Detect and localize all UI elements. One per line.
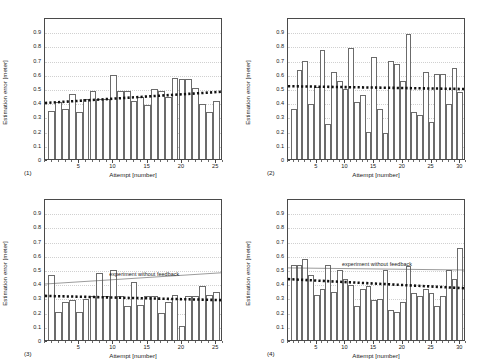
x-tick-label: 5 <box>77 163 80 169</box>
x-tick-label: 5 <box>314 344 317 350</box>
x-tick-minor <box>126 160 127 162</box>
x-tick-minor <box>293 160 294 162</box>
x-tick-minor <box>58 341 59 343</box>
x-tick-minor <box>85 341 86 343</box>
x-tick-minor <box>167 160 168 162</box>
x-tick-minor <box>44 341 45 343</box>
x-tick-label: 5 <box>77 344 80 350</box>
y-tick-label: 0.5 <box>276 86 284 92</box>
y-tick-label: 0.5 <box>33 86 41 92</box>
x-tick-minor <box>356 160 357 162</box>
y-tick-label: 0.4 <box>276 281 284 287</box>
x-tick-minor <box>140 160 141 162</box>
x-axis-title: Attempt [number] <box>287 352 465 359</box>
x-tick-minor <box>339 341 340 343</box>
y-tick-label: 0.3 <box>276 295 284 301</box>
x-tick-minor <box>333 160 334 162</box>
x-tick-minor <box>71 160 72 162</box>
x-tick-minor <box>350 160 351 162</box>
y-tick-label: 0.3 <box>33 295 41 301</box>
x-tick-minor <box>99 341 100 343</box>
x-tick-minor <box>454 341 455 343</box>
x-tick-minor <box>201 341 202 343</box>
y-axis-title: Estimation error [meter] <box>244 60 251 125</box>
x-tick-minor <box>119 341 120 343</box>
x-tick-minor <box>356 341 357 343</box>
subplot-label: (4) <box>267 350 275 357</box>
x-tick-minor <box>92 341 93 343</box>
y-tick-label: 0.6 <box>276 253 284 259</box>
x-tick-minor <box>174 160 175 162</box>
x-tick-minor <box>106 341 107 343</box>
x-tick-minor <box>442 341 443 343</box>
x-tick-minor <box>99 160 100 162</box>
plot-area <box>44 18 222 160</box>
subplot-2: Estimation error [meter]00.10.20.30.40.5… <box>243 0 487 181</box>
y-tick-label: 0.6 <box>276 72 284 78</box>
x-tick-minor <box>448 341 449 343</box>
x-tick-minor <box>327 341 328 343</box>
y-tick-label: 0.7 <box>33 58 41 64</box>
x-tick-minor <box>65 341 66 343</box>
y-tick-label: 0 <box>38 338 41 344</box>
x-tick-minor <box>362 341 363 343</box>
x-axis-title: Attempt [number] <box>44 171 222 178</box>
x-tick-minor <box>58 160 59 162</box>
x-tick-label: 30 <box>456 344 462 350</box>
y-tick-labels: 00.10.20.30.40.50.60.70.80.9 <box>22 18 41 160</box>
x-tick-minor <box>350 341 351 343</box>
x-tick-label: 20 <box>399 163 405 169</box>
y-tick-label: 0.9 <box>33 29 41 35</box>
x-tick-minor <box>465 160 466 162</box>
x-tick-minor <box>442 160 443 162</box>
y-tick-label: 0.4 <box>276 100 284 106</box>
x-tick-minor <box>119 160 120 162</box>
x-tick-minor <box>188 341 189 343</box>
x-tick-minor <box>396 341 397 343</box>
y-axis-title: Estimation error [meter] <box>1 241 8 306</box>
y-tick-label: 0 <box>38 157 41 163</box>
y-tick-label: 0.2 <box>33 129 41 135</box>
y-tick-label: 0.8 <box>276 43 284 49</box>
x-tick-label: 20 <box>178 344 184 350</box>
x-tick-minor <box>222 341 223 343</box>
x-tick-minor <box>304 160 305 162</box>
x-tick-minor <box>310 341 311 343</box>
y-tick-label: 0.3 <box>33 114 41 120</box>
x-tick-minor <box>367 160 368 162</box>
x-tick-minor <box>385 160 386 162</box>
y-tick-label: 0.9 <box>276 210 284 216</box>
plot-area: experiment without feedback <box>44 199 222 341</box>
x-tick-minor <box>390 341 391 343</box>
x-tick-minor <box>304 341 305 343</box>
x-tick-minor <box>419 341 420 343</box>
x-tick-minor <box>208 160 209 162</box>
x-tick-minor <box>385 341 386 343</box>
x-tick-minor <box>160 341 161 343</box>
x-tick-minor <box>408 341 409 343</box>
y-axis-title: Estimation error [meter] <box>1 60 8 125</box>
x-tick-minor <box>413 341 414 343</box>
subplot-3: Estimation error [meter]00.10.20.30.40.5… <box>0 181 244 362</box>
subplot-1: Estimation error [meter]00.10.20.30.40.5… <box>0 0 244 181</box>
x-tick-label: 15 <box>144 163 150 169</box>
x-tick-minor <box>454 160 455 162</box>
x-tick-minor <box>201 160 202 162</box>
y-tick-label: 0.1 <box>276 324 284 330</box>
x-tick-minor <box>71 341 72 343</box>
x-tick-minor <box>195 160 196 162</box>
figure-four-panel-bar-charts: Estimation error [meter]00.10.20.30.40.5… <box>0 0 487 362</box>
x-tick-minor <box>390 160 391 162</box>
x-tick-minor <box>208 341 209 343</box>
x-tick-minor <box>448 160 449 162</box>
y-tick-label: 0.7 <box>276 58 284 64</box>
plot-area <box>287 18 465 160</box>
x-tick-minor <box>195 341 196 343</box>
x-tick-label: 25 <box>427 163 433 169</box>
x-tick-minor <box>425 160 426 162</box>
x-tick-label: 25 <box>212 344 218 350</box>
plot-area: experiment without feedback <box>287 199 465 341</box>
x-tick-minor <box>154 341 155 343</box>
x-tick-label: 30 <box>456 163 462 169</box>
annotation-experiment-without-feedback: experiment without feedback <box>342 261 412 267</box>
